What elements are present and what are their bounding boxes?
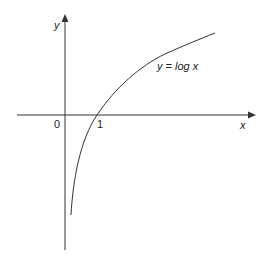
origin-label: 0 bbox=[54, 119, 60, 130]
x-axis-label: x bbox=[240, 120, 246, 131]
x-axis-arrow-icon bbox=[248, 112, 256, 119]
x-intercept-label: 1 bbox=[97, 119, 103, 130]
y-axis-arrow-icon bbox=[62, 14, 69, 22]
y-axis-label: y bbox=[54, 20, 60, 31]
function-label: y = log x bbox=[157, 61, 198, 72]
log-graph bbox=[0, 0, 265, 260]
